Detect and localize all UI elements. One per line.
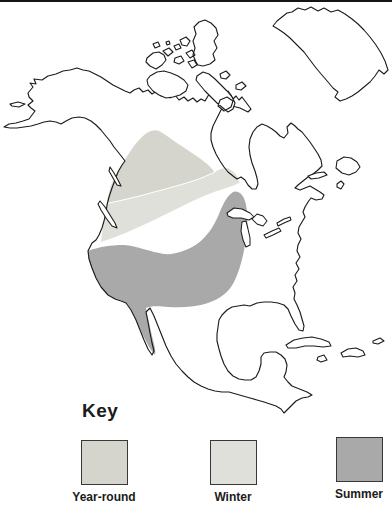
summer-label: Summer: [335, 487, 383, 501]
scanned-page: Key Year-round Winter Summer: [0, 0, 392, 512]
north-america-range-map: [0, 0, 392, 512]
mainland-coastline: [4, 68, 324, 413]
key-item-year-round: Year-round: [58, 440, 150, 504]
winter-swatch: [210, 440, 257, 485]
atlantic-islands-outline: [308, 157, 360, 189]
winter-label: Winter: [214, 490, 251, 504]
key-item-winter: Winter: [187, 440, 279, 504]
caribbean-islands-outline: [286, 337, 384, 362]
arctic-islands-outline: [146, 20, 246, 112]
key-item-summer: Summer: [313, 437, 392, 501]
year-round-label: Year-round: [72, 490, 135, 504]
greenland-outline: [273, 7, 388, 101]
summer-swatch: [336, 437, 383, 482]
key-title: Key: [82, 400, 118, 422]
year-round-swatch: [81, 440, 128, 485]
